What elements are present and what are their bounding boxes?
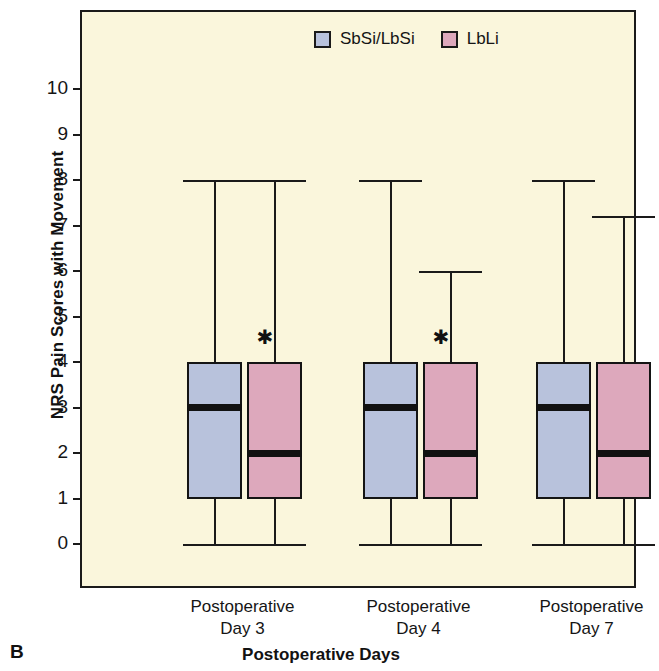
upper-whisker-line bbox=[214, 180, 216, 362]
y-tick-label: 8 bbox=[34, 168, 68, 190]
upper-whisker-cap bbox=[359, 180, 422, 182]
y-tick-mark bbox=[73, 88, 82, 90]
y-tick-label: 7 bbox=[34, 214, 68, 236]
significance-asterisk: ✱ bbox=[433, 327, 450, 347]
y-tick-mark bbox=[73, 179, 82, 181]
legend-swatch-icon bbox=[314, 31, 331, 48]
x-axis-title: Postoperative Days bbox=[0, 645, 642, 665]
upper-whisker-line bbox=[563, 180, 565, 362]
lower-whisker-line bbox=[214, 499, 216, 545]
y-tick-label: 9 bbox=[34, 123, 68, 145]
y-tick-label: 4 bbox=[34, 350, 68, 372]
x-label-line: Postoperative bbox=[502, 596, 659, 618]
plot-area: 012345678910 SbSi/LbSiLbLi ✱✱ bbox=[80, 10, 636, 588]
y-tick-mark bbox=[73, 452, 82, 454]
y-tick-mark bbox=[73, 498, 82, 500]
y-tick-mark bbox=[73, 270, 82, 272]
lower-whisker-cap bbox=[419, 544, 482, 546]
y-tick-label: 10 bbox=[34, 77, 68, 99]
legend-label: SbSi/LbSi bbox=[340, 29, 415, 49]
x-label-line: Postoperative bbox=[153, 596, 333, 618]
lower-whisker-cap bbox=[532, 544, 595, 546]
median-line bbox=[187, 404, 242, 411]
upper-whisker-cap bbox=[592, 216, 655, 218]
upper-whisker-cap bbox=[183, 180, 246, 182]
y-tick-mark bbox=[73, 407, 82, 409]
box-iqr-rect[interactable] bbox=[187, 362, 242, 499]
significance-asterisk: ✱ bbox=[257, 327, 274, 347]
panel-label: B bbox=[10, 641, 24, 663]
upper-whisker-cap bbox=[419, 271, 482, 273]
x-label-line: Day 7 bbox=[502, 618, 659, 640]
lower-whisker-cap bbox=[359, 544, 422, 546]
y-tick-label: 5 bbox=[34, 305, 68, 327]
y-tick-mark bbox=[73, 361, 82, 363]
legend-label: LbLi bbox=[467, 29, 499, 49]
box-iqr-rect[interactable] bbox=[363, 362, 418, 499]
box-iqr-rect[interactable] bbox=[596, 362, 651, 499]
chart-legend: SbSi/LbSiLbLi bbox=[314, 29, 499, 49]
lower-whisker-cap bbox=[592, 544, 655, 546]
lower-whisker-line bbox=[390, 499, 392, 545]
upper-whisker-cap bbox=[243, 180, 306, 182]
x-axis-group-label-1: PostoperativeDay 3 bbox=[153, 596, 333, 640]
legend-swatch-icon bbox=[441, 31, 458, 48]
lower-whisker-line bbox=[450, 499, 452, 545]
legend-entry-lbli[interactable]: LbLi bbox=[441, 29, 499, 49]
box-iqr-rect[interactable] bbox=[536, 362, 591, 499]
y-tick-label: 2 bbox=[34, 441, 68, 463]
y-tick-mark bbox=[73, 543, 82, 545]
x-label-line: Day 3 bbox=[153, 618, 333, 640]
y-tick-label: 1 bbox=[34, 487, 68, 509]
x-axis-group-label-3: PostoperativeDay 7 bbox=[502, 596, 659, 640]
x-axis-group-label-2: PostoperativeDay 4 bbox=[329, 596, 509, 640]
box-iqr-rect[interactable] bbox=[247, 362, 302, 499]
upper-whisker-cap bbox=[532, 180, 595, 182]
median-line bbox=[596, 450, 651, 457]
upper-whisker-line bbox=[623, 216, 625, 362]
lower-whisker-cap bbox=[243, 544, 306, 546]
legend-entry-sbsi-lbsi[interactable]: SbSi/LbSi bbox=[314, 29, 415, 49]
median-line bbox=[363, 404, 418, 411]
y-tick-mark bbox=[73, 316, 82, 318]
lower-whisker-line bbox=[274, 499, 276, 545]
median-line bbox=[423, 450, 478, 457]
x-label-line: Day 4 bbox=[329, 618, 509, 640]
upper-whisker-line bbox=[450, 271, 452, 362]
y-tick-label: 3 bbox=[34, 396, 68, 418]
lower-whisker-cap bbox=[183, 544, 246, 546]
y-tick-mark bbox=[73, 134, 82, 136]
upper-whisker-line bbox=[390, 180, 392, 362]
x-label-line: Postoperative bbox=[329, 596, 509, 618]
y-tick-label: 0 bbox=[34, 532, 68, 554]
y-tick-mark bbox=[73, 225, 82, 227]
median-line bbox=[536, 404, 591, 411]
lower-whisker-line bbox=[623, 499, 625, 545]
upper-whisker-line bbox=[274, 180, 276, 362]
lower-whisker-line bbox=[563, 499, 565, 545]
median-line bbox=[247, 450, 302, 457]
box-iqr-rect[interactable] bbox=[423, 362, 478, 499]
y-tick-label: 6 bbox=[34, 259, 68, 281]
